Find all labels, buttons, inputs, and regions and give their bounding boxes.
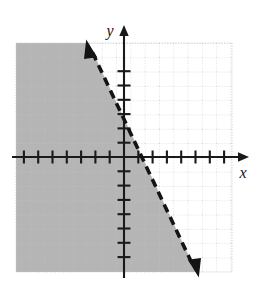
coordinate-plane-svg: y x <box>0 0 263 284</box>
x-axis-arrowhead <box>238 152 249 162</box>
y-axis-label: y <box>104 22 114 40</box>
graph-figure: y x <box>0 0 263 284</box>
y-axis-arrowhead <box>119 25 128 36</box>
x-axis-label: x <box>238 164 246 181</box>
